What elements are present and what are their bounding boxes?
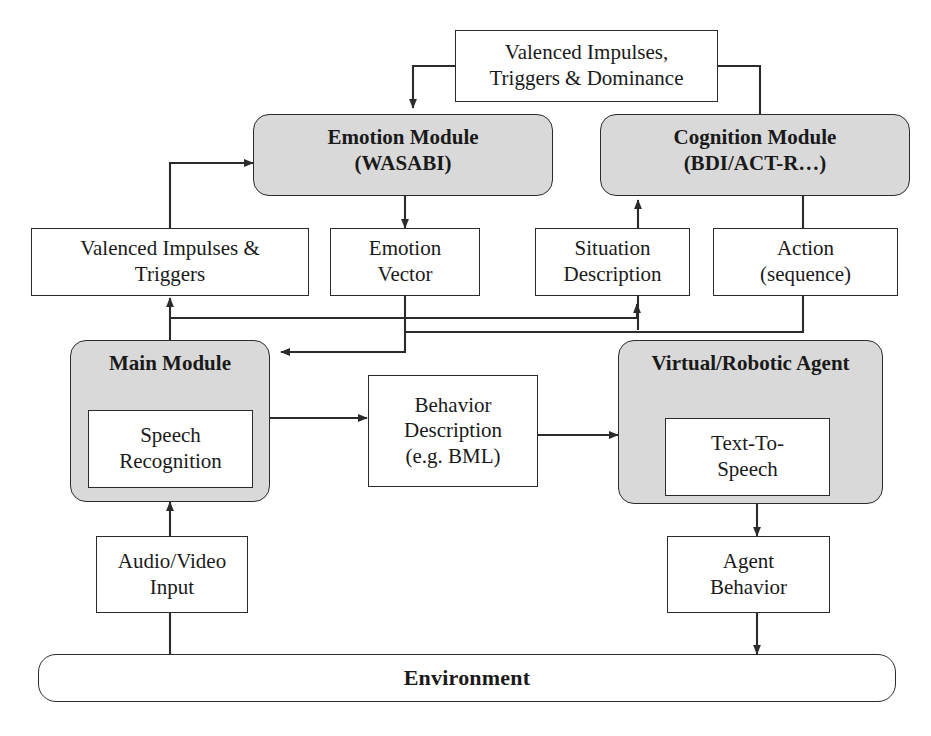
- node-cognition-module[interactable]: Cognition Module (BDI/ACT-R…): [600, 114, 910, 196]
- node-agent-behavior[interactable]: Agent Behavior: [667, 536, 830, 613]
- node-label: Valenced Impulses & Triggers: [80, 236, 260, 287]
- node-label: Valenced Impulses, Triggers & Dominance: [489, 40, 683, 91]
- node-valenced-impulses-triggers-dominance[interactable]: Valenced Impulses, Triggers & Dominance: [455, 30, 718, 102]
- edge-main-to-situation: [170, 304, 637, 318]
- node-label: Emotion Vector: [369, 236, 441, 287]
- node-environment[interactable]: Environment: [38, 654, 896, 702]
- node-label: Environment: [404, 665, 530, 692]
- node-label: Main Module: [109, 351, 231, 377]
- node-label: Action (sequence): [760, 236, 851, 287]
- node-speech-recognition[interactable]: Speech Recognition: [88, 410, 253, 488]
- edge-triggers-to-emotion: [170, 163, 253, 228]
- edge-valenced-to-cognition: [718, 66, 760, 114]
- node-label: Text-To- Speech: [711, 431, 784, 482]
- node-text-to-speech[interactable]: Text-To- Speech: [665, 418, 830, 496]
- node-label: Audio/Video Input: [118, 549, 226, 600]
- node-label: Behavior Description (e.g. BML): [404, 393, 502, 470]
- node-emotion-module[interactable]: Emotion Module (WASABI): [253, 114, 553, 196]
- node-audio-video-input[interactable]: Audio/Video Input: [96, 536, 248, 613]
- node-label: Virtual/Robotic Agent: [651, 351, 849, 377]
- node-emotion-vector[interactable]: Emotion Vector: [330, 228, 480, 296]
- node-label: Situation Description: [564, 236, 662, 287]
- node-label: Speech Recognition: [119, 423, 222, 474]
- node-situation-description[interactable]: Situation Description: [535, 228, 690, 296]
- node-action-sequence[interactable]: Action (sequence): [713, 228, 898, 296]
- edge-valenced-to-emotion: [413, 66, 455, 108]
- edge-vector-to-main: [281, 296, 405, 352]
- architecture-diagram: Valenced Impulses, Triggers & Dominance …: [0, 0, 931, 736]
- node-behavior-description[interactable]: Behavior Description (e.g. BML): [368, 375, 538, 487]
- node-label: Agent Behavior: [710, 549, 787, 600]
- node-label: Emotion Module (WASABI): [327, 125, 478, 176]
- node-valenced-impulses-triggers[interactable]: Valenced Impulses & Triggers: [31, 228, 309, 296]
- edge-action-to-main: [405, 296, 803, 332]
- node-label: Cognition Module (BDI/ACT-R…): [674, 125, 837, 176]
